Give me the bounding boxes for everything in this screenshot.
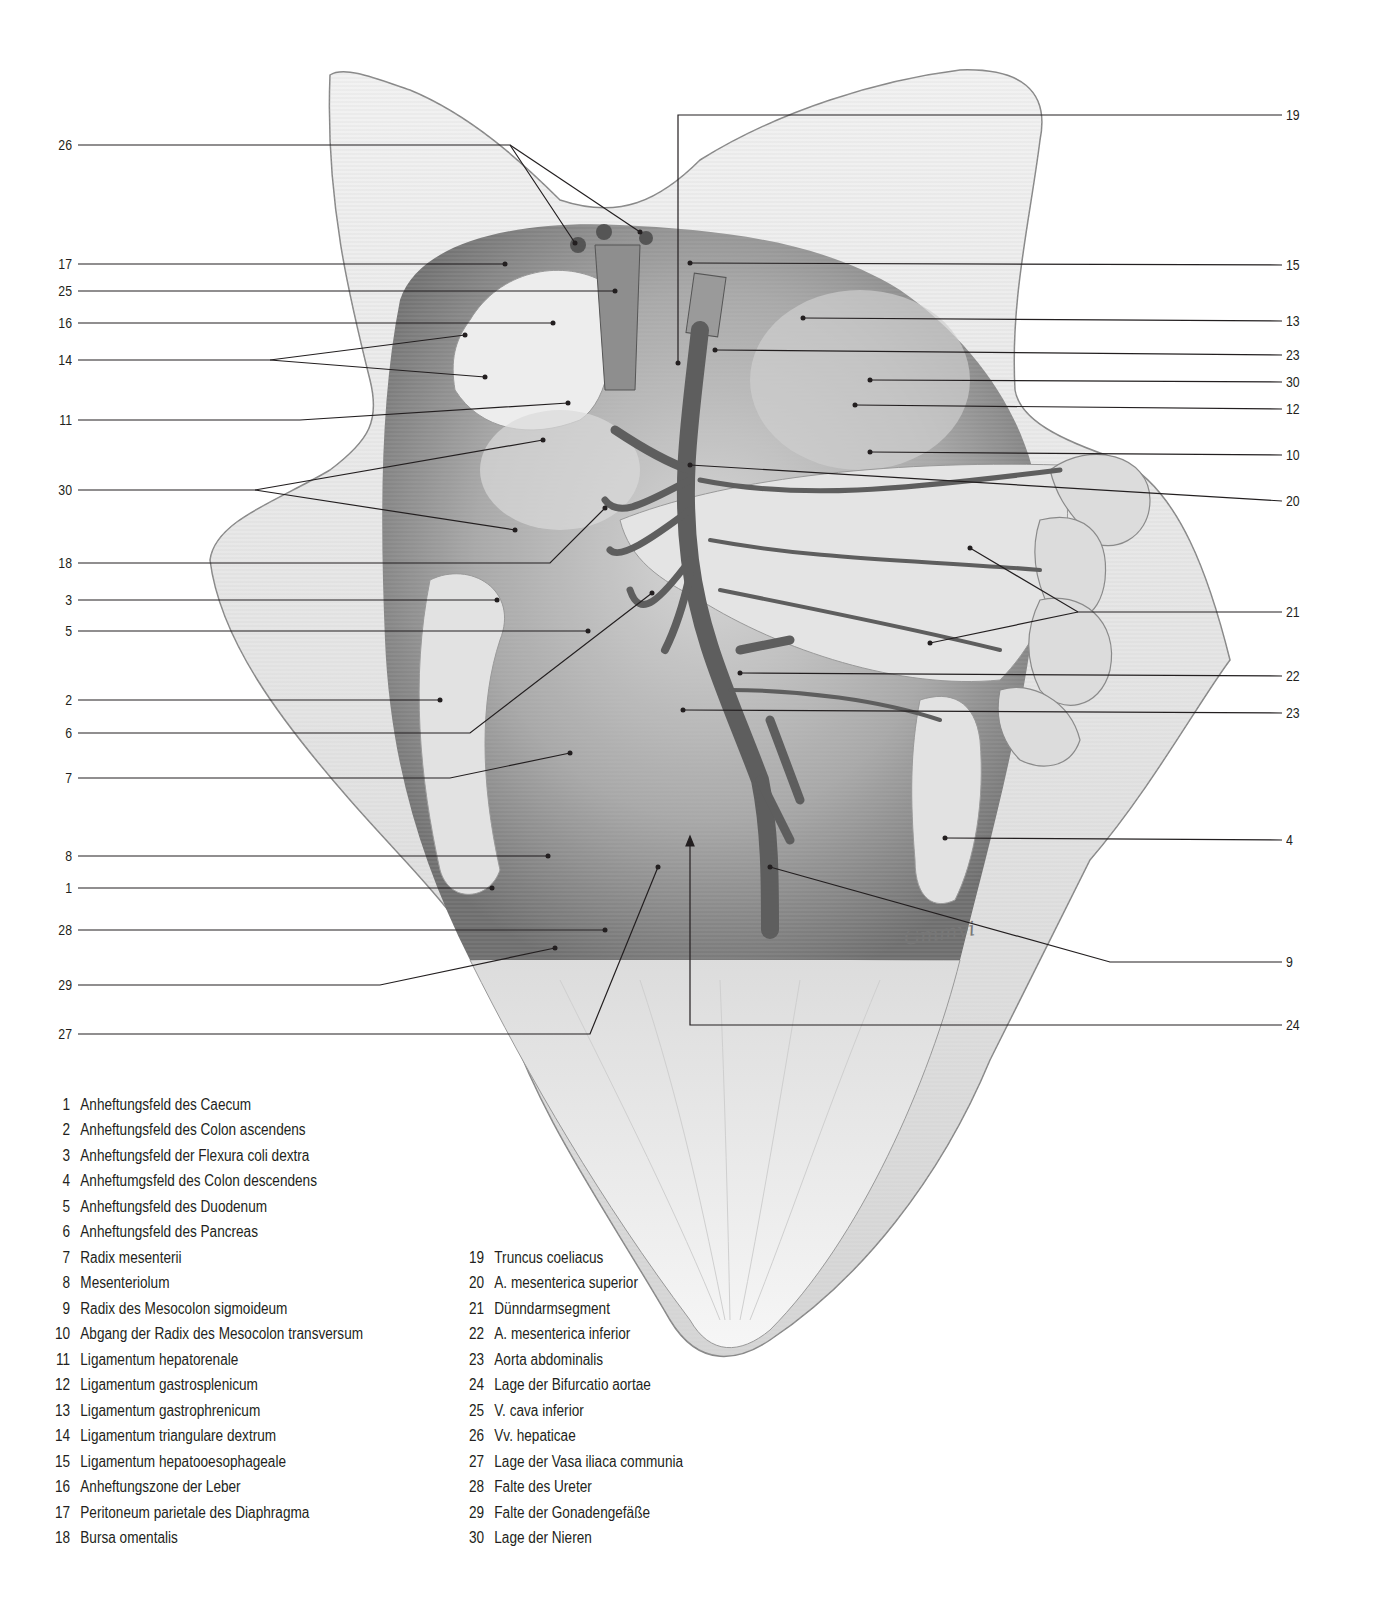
legend-text: Lage der Bifurcatio aortae (494, 1376, 651, 1394)
callout-number: 25 (39, 283, 72, 298)
callout-number: 18 (39, 555, 72, 570)
legend-item: 24 Lage der Bifurcatio aortae (462, 1373, 683, 1399)
legend-item: 17 Peritoneum parietale des Diaphragma (48, 1500, 363, 1526)
legend-item: 10 Abgang der Radix des Mesocolon transv… (48, 1322, 363, 1348)
callout-number: 19 (1286, 107, 1300, 122)
legend-item: 22 A. mesenterica inferior (462, 1322, 683, 1348)
callout-number: 5 (39, 623, 72, 638)
legend-item: 3 Anheftungsfeld der Flexura coli dextra (48, 1143, 363, 1169)
legend-text: Anheftungsfeld des Caecum (80, 1096, 251, 1114)
callout-number: 7 (39, 770, 72, 785)
legend-text: Anheftungsfeld der Flexura coli dextra (80, 1147, 309, 1165)
legend-number: 7 (48, 1249, 70, 1267)
callout-number: 23 (1286, 705, 1300, 720)
callout-number: 28 (39, 922, 72, 937)
legend-item: 1 Anheftungsfeld des Caecum (48, 1092, 363, 1118)
callout-number: 22 (1286, 668, 1300, 683)
legend-text: Anheftungsfeld des Colon ascendens (80, 1121, 305, 1139)
legend-item: 7 Radix mesenterii (48, 1245, 363, 1271)
callout-number: 16 (39, 315, 72, 330)
legend-text: Ligamentum hepatorenale (80, 1351, 238, 1369)
callout-number: 26 (39, 137, 72, 152)
legend-text: Ligamentum triangulare dextrum (80, 1427, 276, 1445)
legend-text: Dünndarmsegment (494, 1300, 610, 1318)
legend-text: Lage der Nieren (494, 1529, 592, 1547)
legend-text: A. mesenterica superior (494, 1274, 638, 1292)
callout-number: 13 (1286, 313, 1300, 328)
legend-number: 1 (48, 1096, 70, 1114)
legend-item: 5 Anheftungsfeld des Duodenum (48, 1194, 363, 1220)
legend-item: 28 Falte des Ureter (462, 1475, 683, 1501)
legend-item: 13 Ligamentum gastrophrenicum (48, 1398, 363, 1424)
legend-item: 23 Aorta abdominalis (462, 1347, 683, 1373)
legend-column-2: 19 Truncus coeliacus 20 A. mesenterica s… (462, 1245, 722, 1551)
legend-text: Mesenteriolum (80, 1274, 169, 1292)
legend-number: 11 (48, 1351, 70, 1369)
legend-item: 18 Bursa omentalis (48, 1526, 363, 1552)
legend-item: 25 V. cava inferior (462, 1398, 683, 1424)
legend-number: 23 (462, 1351, 484, 1369)
callout-number: 23 (1286, 347, 1300, 362)
legend-number: 5 (48, 1198, 70, 1216)
legend-text: Anheftungsfeld des Pancreas (80, 1223, 258, 1241)
legend-item: 2 Anheftungsfeld des Colon ascendens (48, 1118, 363, 1144)
legend-number: 25 (462, 1402, 484, 1420)
legend-number: 26 (462, 1427, 484, 1445)
legend-number: 28 (462, 1478, 484, 1496)
callout-number: 4 (1286, 832, 1293, 847)
legend-item: 11 Ligamentum hepatorenale (48, 1347, 363, 1373)
legend-item: 30 Lage der Nieren (462, 1526, 683, 1552)
callout-number: 8 (39, 848, 72, 863)
legend-item: 6 Anheftungsfeld des Pancreas (48, 1220, 363, 1246)
legend-text: Lage der Vasa iliaca communia (494, 1453, 683, 1471)
legend-number: 14 (48, 1427, 70, 1445)
callout-number: 15 (1286, 257, 1300, 272)
legend-item: 12 Ligamentum gastrosplenicum (48, 1373, 363, 1399)
legend-text: Ligamentum hepatooesophageale (80, 1453, 286, 1471)
legend-text: Aorta abdominalis (494, 1351, 603, 1369)
callout-number: 1 (39, 880, 72, 895)
legend-number: 12 (48, 1376, 70, 1394)
legend-item: 14 Ligamentum triangulare dextrum (48, 1424, 363, 1450)
legend-item: 29 Falte der Gonadengefäße (462, 1500, 683, 1526)
legend-number: 20 (462, 1274, 484, 1292)
anatomical-illustration: Gmmvi 26172516141130183526781282927 1915… (0, 0, 1385, 1604)
legend-number: 29 (462, 1504, 484, 1522)
legend-number: 4 (48, 1172, 70, 1190)
legend-item: 16 Anheftungszone der Leber (48, 1475, 363, 1501)
callout-number: 21 (1286, 604, 1300, 619)
legend-text: Truncus coeliacus (494, 1249, 603, 1267)
legend-text: Ligamentum gastrophrenicum (80, 1402, 260, 1420)
legend-number: 21 (462, 1300, 484, 1318)
callout-number: 17 (39, 256, 72, 271)
legend-number: 9 (48, 1300, 70, 1318)
legend-text: Bursa omentalis (80, 1529, 178, 1547)
legend-number: 15 (48, 1453, 70, 1471)
callout-number: 12 (1286, 401, 1300, 416)
legend-text: Falte der Gonadengefäße (494, 1504, 650, 1522)
legend-number: 30 (462, 1529, 484, 1547)
callout-number: 27 (39, 1026, 72, 1041)
legend-text: Anheftungszone der Leber (80, 1478, 240, 1496)
legend-number: 10 (48, 1325, 70, 1343)
legend-number: 19 (462, 1249, 484, 1267)
legend-number: 8 (48, 1274, 70, 1292)
legend-text: Radix des Mesocolon sigmoideum (80, 1300, 287, 1318)
callout-number: 2 (39, 692, 72, 707)
legend-text: Vv. hepaticae (494, 1427, 575, 1445)
legend-number: 17 (48, 1504, 70, 1522)
legend-item: 26 Vv. hepaticae (462, 1424, 683, 1450)
callout-number: 6 (39, 725, 72, 740)
legend-text: Ligamentum gastrosplenicum (80, 1376, 258, 1394)
callout-number: 20 (1286, 493, 1300, 508)
legend-number: 27 (462, 1453, 484, 1471)
legend-text: Radix mesenterii (80, 1249, 181, 1267)
callout-number: 29 (39, 977, 72, 992)
callout-number: 30 (39, 482, 72, 497)
legend-item: 4 Anheftumgsfeld des Colon descendens (48, 1169, 363, 1195)
callout-number: 9 (1286, 954, 1293, 969)
callout-number: 24 (1286, 1017, 1300, 1032)
legend-item: 21 Dünndarmsegment (462, 1296, 683, 1322)
legend-number: 22 (462, 1325, 484, 1343)
legend-column-1: 1 Anheftungsfeld des Caecum 2 Anheftungs… (48, 1092, 419, 1551)
